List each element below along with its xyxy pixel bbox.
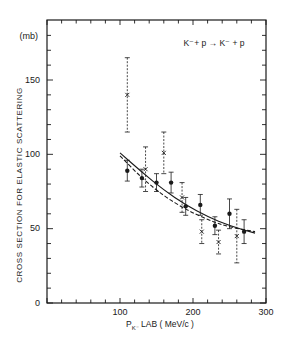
y-tick-100: 100 [25, 149, 40, 159]
reaction-label: K⁻+ p → K⁻ + p [183, 38, 244, 48]
data-point-cross [234, 209, 239, 263]
data-point-cross [161, 132, 166, 174]
data-point-cross [125, 58, 130, 132]
plot-frame [47, 20, 266, 303]
data-point-dot [125, 160, 130, 181]
y-tick-150: 150 [25, 75, 40, 85]
cross-section-chart: (mb) K⁻+ p → K⁻ + p 0 50 100 150 100 200… [0, 0, 290, 344]
axis-ticks [47, 20, 266, 303]
x-tick-200: 200 [185, 307, 200, 317]
data-point-cross [216, 230, 221, 254]
y-tick-50: 50 [30, 223, 40, 233]
data-point-dot [169, 172, 174, 193]
y-unit-label: (mb) [20, 31, 39, 41]
dashed-fit-curve [120, 156, 255, 232]
data-point-dot [139, 169, 144, 187]
y-axis-label: CROSS SECTION FOR ELASTIC SCATTERING [15, 87, 24, 283]
plot-border [47, 20, 266, 303]
solid-fit-curve [120, 153, 255, 233]
y-tick-0: 0 [35, 298, 40, 308]
x-tick-100: 100 [112, 307, 127, 317]
fit-curves [120, 153, 255, 233]
x-axis-label: PK⁻ LAB ( MeV/c ) [126, 319, 194, 331]
x-tick-300: 300 [258, 307, 273, 317]
data-point-dot [242, 220, 247, 244]
data-point-dot [154, 174, 159, 192]
data-point-cross [199, 220, 204, 244]
data-points [125, 58, 247, 263]
